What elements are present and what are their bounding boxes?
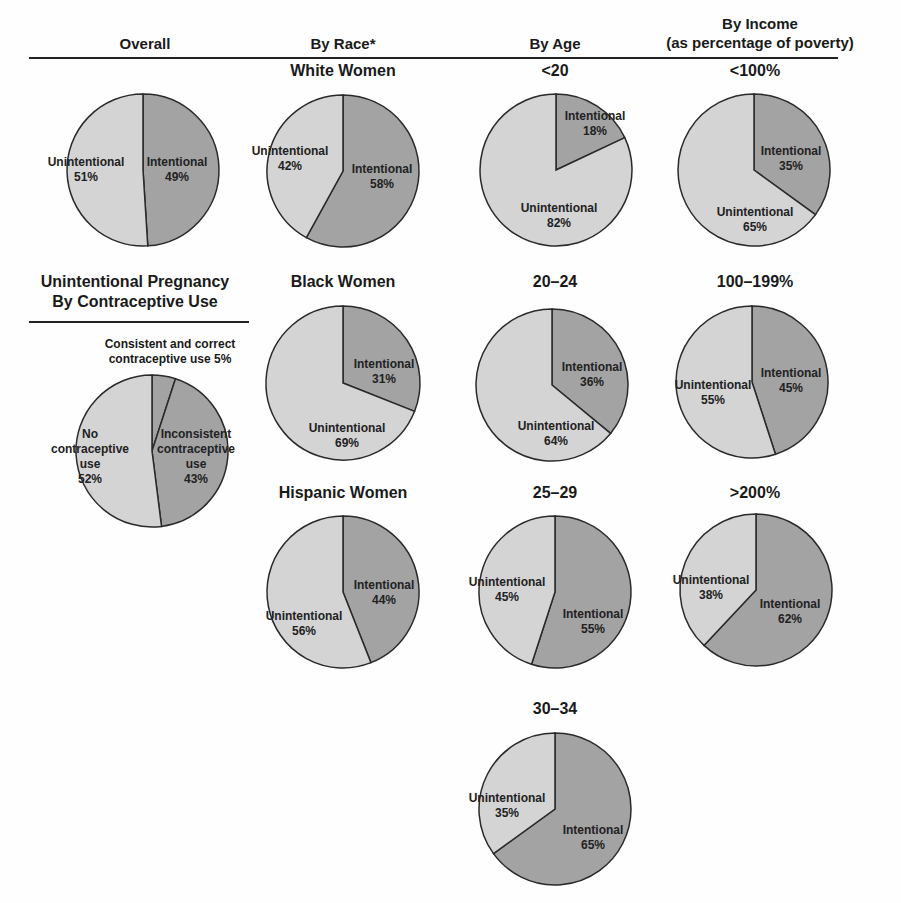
pie-charts: Intentional49%Unintentional51%Intentiona… [0,0,901,903]
